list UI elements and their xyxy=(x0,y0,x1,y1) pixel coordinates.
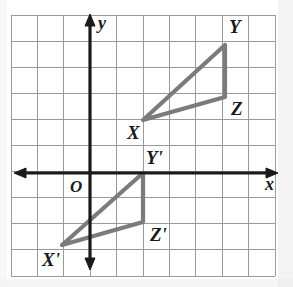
vertex-label-z-prime: Z' xyxy=(150,225,167,244)
scan-edge-bottom xyxy=(0,279,293,287)
vertex-label-z: Z xyxy=(231,99,243,118)
coordinate-plane-canvas xyxy=(0,0,293,287)
x-axis-label: x xyxy=(265,175,274,193)
vertex-label-y: Y xyxy=(229,17,241,36)
coordinate-plane-figure: y x O X Y Z X' Y' Z' xyxy=(0,0,293,287)
vertex-label-y-prime: Y' xyxy=(146,148,163,167)
scan-edge-right xyxy=(278,0,293,287)
y-axis-label: y xyxy=(98,14,106,32)
origin-label: O xyxy=(70,178,82,195)
vertex-label-x-prime: X' xyxy=(42,250,60,269)
scan-edge-left xyxy=(0,0,7,287)
vertex-label-x: X xyxy=(127,123,140,142)
